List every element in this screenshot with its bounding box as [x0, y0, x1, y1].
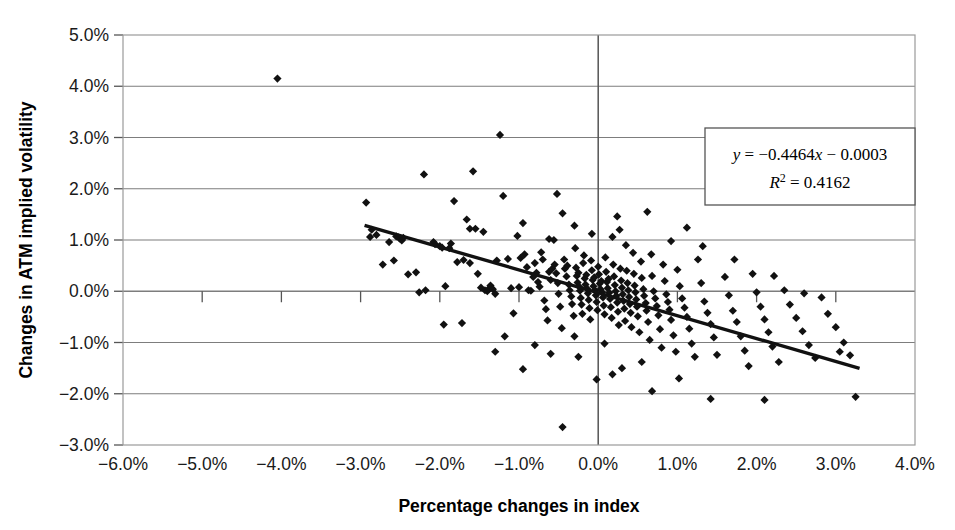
x-axis-title: Percentage changes in index [398, 496, 639, 516]
x-tick-label: −5.0% [177, 454, 227, 474]
data-point-marker [273, 74, 281, 82]
data-point-marker [607, 303, 615, 311]
data-point-marker [703, 309, 711, 317]
data-point-marker [725, 291, 733, 299]
data-point-marker [685, 325, 693, 333]
data-point-marker [667, 316, 675, 324]
data-point-marker [558, 209, 566, 217]
data-point-marker [420, 170, 428, 178]
data-point-marker [635, 328, 643, 336]
data-point-marker [513, 232, 521, 240]
data-point-marker [474, 270, 482, 278]
data-point-marker [713, 351, 721, 359]
data-point-marker [441, 282, 449, 290]
data-point-marker [385, 238, 393, 246]
data-point-marker [672, 348, 680, 356]
data-point-marker [683, 224, 691, 232]
data-point-marker [616, 265, 624, 273]
scatter-chart: 5.0%4.0%3.0%2.0%1.0%0.0%−1.0%−2.0%−3.0% … [0, 0, 955, 530]
data-point-marker [501, 332, 509, 340]
data-point-marker [372, 231, 380, 239]
regression-line [365, 225, 860, 368]
x-tick-label: −6.0% [98, 454, 148, 474]
r-squared-symbol: R [768, 173, 780, 192]
x-tick-label: 3.0% [816, 454, 856, 474]
data-point-marker [630, 270, 638, 278]
x-tick-label: 1.0% [657, 454, 697, 474]
x-axis-tick-labels: −6.0%−5.0%−4.0%−3.0%−2.0%−1.0%0.0%1.0%2.… [98, 454, 935, 474]
x-tick-label: 0.0% [578, 454, 618, 474]
data-point-marker [656, 325, 664, 333]
data-point-marker [509, 309, 517, 317]
data-point-marker [648, 272, 656, 280]
data-point-marker [667, 237, 675, 245]
y-tick-label: 1.0% [69, 230, 109, 250]
data-point-marker [542, 305, 550, 313]
data-point-marker [574, 353, 582, 361]
data-point-marker [588, 266, 596, 274]
data-point-marker [540, 296, 548, 304]
data-point-marker [519, 219, 527, 227]
data-point-marker [450, 197, 458, 205]
data-point-marker [631, 282, 639, 290]
data-point-marker [553, 190, 561, 198]
y-axis-tick-labels: 5.0%4.0%3.0%2.0%1.0%0.0%−1.0%−2.0%−3.0% [59, 25, 109, 455]
data-point-marker [741, 347, 749, 355]
data-point-marker [710, 333, 718, 341]
data-point-marker [786, 300, 794, 308]
data-point-marker [504, 255, 512, 263]
data-point-marker [593, 306, 601, 314]
data-point-marker [688, 339, 696, 347]
data-point-marker [800, 289, 808, 297]
data-point-marker [629, 249, 637, 257]
data-point-marker [618, 364, 626, 372]
data-point-marker [621, 317, 629, 325]
data-point-marker [571, 244, 579, 252]
data-point-marker [600, 310, 608, 318]
y-axis-title: Changes in ATM implied volatility [16, 101, 36, 378]
data-point-marker [764, 328, 772, 336]
data-point-marker [585, 304, 593, 312]
data-point-marker [798, 327, 806, 335]
data-point-marker [415, 288, 423, 296]
data-point-marker [680, 304, 688, 312]
x-tick-label: 4.0% [895, 454, 935, 474]
data-point-marker [639, 285, 647, 293]
data-point-marker [694, 255, 702, 263]
data-point-marker [675, 374, 683, 382]
data-point-marker [615, 226, 623, 234]
data-point-marker [627, 309, 635, 317]
data-point-marker [699, 242, 707, 250]
data-point-marker [846, 351, 854, 359]
data-point-marker [745, 362, 753, 370]
data-point-marker [661, 277, 669, 285]
data-point-marker [578, 310, 586, 318]
data-point-marker [577, 300, 585, 308]
data-point-marker [556, 303, 564, 311]
data-point-marker [669, 331, 677, 339]
data-point-marker [547, 350, 555, 358]
y-tick-label: 4.0% [69, 76, 109, 96]
data-point-marker [640, 292, 648, 300]
data-point-marker [593, 375, 601, 383]
data-point-marker [587, 256, 595, 264]
data-point-marker [824, 310, 832, 318]
data-point-marker [404, 270, 412, 278]
data-point-marker [756, 303, 764, 311]
data-point-marker [697, 279, 705, 287]
data-point-marker [817, 293, 825, 301]
equation-y-symbol: y [731, 145, 741, 164]
data-point-marker [627, 323, 635, 331]
data-point-marker [600, 302, 608, 310]
data-point-marker [651, 294, 659, 302]
data-point-marker [691, 353, 699, 361]
data-point-marker [362, 198, 370, 206]
data-point-marker [770, 272, 778, 280]
x-tick-label: −4.0% [256, 454, 306, 474]
x-tick-label: −2.0% [415, 454, 465, 474]
y-tick-label: 3.0% [69, 128, 109, 148]
data-point-marker [440, 320, 448, 328]
data-point-marker [608, 370, 616, 378]
data-point-marker [466, 225, 474, 233]
data-point-marker [749, 270, 757, 278]
